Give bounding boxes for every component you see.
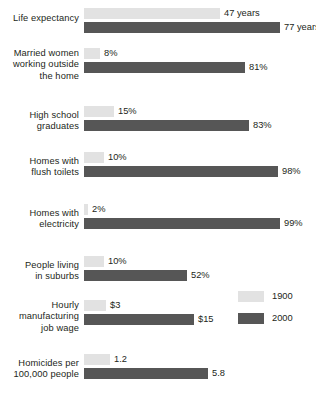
bar-value-label: 5.8 xyxy=(208,368,225,379)
bar-1900 xyxy=(84,48,100,59)
bar-row: $3 xyxy=(84,300,214,311)
category-label-line: Homicides per xyxy=(0,358,79,369)
bar-1900 xyxy=(84,300,106,311)
bar-value-label: 47 years xyxy=(220,8,260,19)
category-label-line: in suburbs xyxy=(0,271,79,282)
category-label-line: Married women xyxy=(0,48,79,59)
bar-pair: 2%99% xyxy=(84,204,303,229)
bar-value-label: $3 xyxy=(106,300,120,311)
bar-value-label: 77 years xyxy=(280,22,316,33)
category-label-line: People living xyxy=(0,260,79,271)
category-label: Homes withflush toilets xyxy=(0,156,79,179)
category-label-line: Life expectancy xyxy=(0,13,79,24)
bar-row: 10% xyxy=(84,256,210,267)
bar-row: 99% xyxy=(84,218,303,229)
bar-pair: 15%83% xyxy=(84,106,272,131)
bar-pair: 10%98% xyxy=(84,152,301,177)
bar-1900 xyxy=(84,8,220,19)
bar-row: 10% xyxy=(84,152,301,163)
category-label-line: Hourly xyxy=(0,300,79,311)
category-label-line: working outside xyxy=(0,59,79,70)
category-label-line: graduates xyxy=(0,121,79,132)
legend-swatch xyxy=(238,313,264,324)
legend-item: 1900 xyxy=(238,291,316,302)
bar-pair: 47 years77 years xyxy=(84,8,316,33)
bar-value-label: $15 xyxy=(194,314,214,325)
bar-row: 83% xyxy=(84,120,272,131)
bar-value-label: 98% xyxy=(278,166,301,177)
bar-1900 xyxy=(84,256,104,267)
bar-2000 xyxy=(84,314,194,325)
category-label: Hourlymanufacturingjob wage xyxy=(0,300,79,334)
bar-2000 xyxy=(84,22,280,33)
comparison-bar-chart: Life expectancy47 years77 yearsMarried w… xyxy=(0,0,316,398)
bar-row: 77 years xyxy=(84,22,316,33)
bar-row: 15% xyxy=(84,106,272,117)
bar-row: 5.8 xyxy=(84,368,225,379)
bar-row: 52% xyxy=(84,270,210,281)
bar-1900 xyxy=(84,106,114,117)
bar-value-label: 1.2 xyxy=(110,354,127,365)
bar-value-label: 83% xyxy=(249,120,272,131)
bar-row: 47 years xyxy=(84,8,316,19)
bar-value-label: 10% xyxy=(104,256,127,267)
bar-row: 81% xyxy=(84,62,268,73)
category-label-line: the home xyxy=(0,71,79,82)
bar-2000 xyxy=(84,270,187,281)
legend-label: 1900 xyxy=(264,291,293,302)
bar-1900 xyxy=(84,152,104,163)
bar-value-label: 52% xyxy=(187,270,210,281)
category-label-line: manufacturing xyxy=(0,311,79,322)
category-label: Homes withelectricity xyxy=(0,208,79,231)
bar-2000 xyxy=(84,368,208,379)
chart-legend: 19002000 xyxy=(238,291,316,335)
bar-row: 2% xyxy=(84,204,303,215)
bar-pair: $3$15 xyxy=(84,300,214,325)
legend-label: 2000 xyxy=(264,313,293,324)
bar-pair: 1.25.8 xyxy=(84,354,225,379)
category-label-line: 100,000 people xyxy=(0,369,79,380)
legend-item: 2000 xyxy=(238,313,316,324)
category-label: High schoolgraduates xyxy=(0,110,79,133)
category-label-line: Homes with xyxy=(0,208,79,219)
bar-value-label: 81% xyxy=(245,62,268,73)
category-label-line: High school xyxy=(0,110,79,121)
bar-value-label: 15% xyxy=(114,106,137,117)
bar-2000 xyxy=(84,62,245,73)
category-label: Life expectancy xyxy=(0,13,79,24)
category-label-line: electricity xyxy=(0,219,79,230)
category-label-line: Homes with xyxy=(0,156,79,167)
bar-pair: 10%52% xyxy=(84,256,210,281)
bar-value-label: 99% xyxy=(280,218,303,229)
category-label: Homicides per100,000 people xyxy=(0,358,79,381)
bar-row: 98% xyxy=(84,166,301,177)
bar-value-label: 2% xyxy=(88,204,105,215)
bar-row: 1.2 xyxy=(84,354,225,365)
bar-value-label: 8% xyxy=(100,48,117,59)
bar-2000 xyxy=(84,166,278,177)
category-label: People livingin suburbs xyxy=(0,260,79,283)
bar-1900 xyxy=(84,354,110,365)
bar-2000 xyxy=(84,218,280,229)
bar-pair: 8%81% xyxy=(84,48,268,73)
bar-row: 8% xyxy=(84,48,268,59)
category-label-line: flush toilets xyxy=(0,167,79,178)
bar-value-label: 10% xyxy=(104,152,127,163)
legend-swatch xyxy=(238,291,264,302)
bar-row: $15 xyxy=(84,314,214,325)
bar-2000 xyxy=(84,120,249,131)
category-label: Married womenworking outsidethe home xyxy=(0,48,79,82)
category-label-line: job wage xyxy=(0,323,79,334)
